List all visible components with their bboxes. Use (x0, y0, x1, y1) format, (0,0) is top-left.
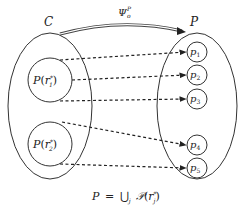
element-p1: p1 (187, 42, 207, 62)
svg-text:o: o (127, 12, 131, 19)
psi-mapping-arrow (60, 25, 186, 35)
svg-text:P: P (126, 5, 132, 12)
element-p5: p5 (187, 158, 207, 178)
set-mapping-diagram: C P Ψ P o P(r*1) P(r*2) p1 p2 p3 (0, 0, 242, 213)
edge-r2-p4 (62, 122, 186, 145)
subset-r2-label: P(r*2) (32, 138, 57, 152)
psi-label: Ψ P o (118, 5, 132, 19)
element-p4: p4 (187, 135, 207, 155)
set-p-label: P (189, 15, 199, 29)
subset-r1-label: P(r*1) (32, 74, 57, 88)
svg-text:P = ⋃j 𝒫(r*: P = ⋃j 𝒫(r*j) (91, 190, 160, 206)
element-p3: p3 (187, 89, 207, 109)
svg-text:P(r*2): P(r*2) (32, 138, 57, 152)
set-c-ellipse (8, 33, 92, 179)
svg-text:P(r*1): P(r*1) (32, 74, 57, 88)
set-c-label: C (44, 15, 53, 29)
element-p2: p2 (187, 65, 207, 85)
caption-formula: P = ⋃j 𝒫(r*j) (91, 190, 160, 206)
edge-r1-p3 (60, 99, 186, 101)
edge-r2-p5 (60, 164, 186, 168)
